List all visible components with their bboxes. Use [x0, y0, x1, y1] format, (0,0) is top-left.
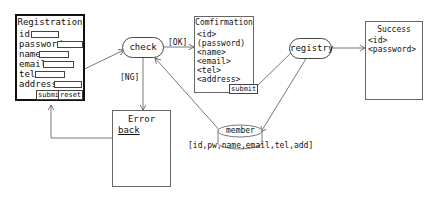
member-columns: [id,pw,name,email,tel,add] [188, 141, 313, 151]
member-database-icon [0, 0, 440, 198]
member-label: member [226, 126, 255, 136]
